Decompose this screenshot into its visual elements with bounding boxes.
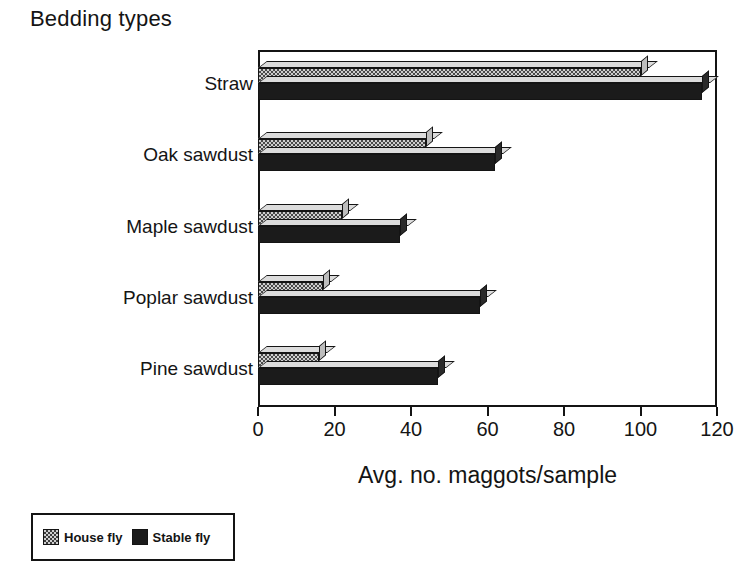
legend-item-house-fly: House fly	[43, 529, 123, 545]
x-tick-80	[563, 407, 565, 416]
category-label-poplar-sawdust: Poplar sawdust	[0, 287, 253, 309]
chart-canvas: Bedding types StrawOak sawdustMaple sawd…	[0, 0, 755, 587]
x-tick-label-20: 20	[305, 418, 365, 441]
bar-end-face	[702, 70, 709, 93]
bar-top-face	[258, 361, 455, 368]
bar-front-face	[258, 297, 480, 314]
x-tick-20	[334, 407, 336, 416]
category-label-oak-sawdust: Oak sawdust	[0, 144, 253, 166]
bar-end-face	[438, 355, 445, 378]
chart-legend: House fly Stable fly	[31, 513, 235, 561]
bar-oak-sawdust-stable-fly	[258, 154, 495, 171]
x-tick-label-40: 40	[381, 418, 441, 441]
bar-top-face	[258, 132, 443, 139]
bar-top-face	[258, 290, 497, 297]
bar-end-face	[641, 55, 648, 76]
x-axis-label: Avg. no. maggots/sample	[258, 462, 717, 489]
legend-label-stable-fly: Stable fly	[153, 530, 211, 545]
x-tick-label-120: 120	[687, 418, 747, 441]
bar-maple-sawdust-stable-fly	[258, 226, 400, 243]
x-tick-label-60: 60	[458, 418, 518, 441]
bar-top-face	[258, 219, 416, 226]
x-tick-0	[257, 407, 259, 416]
x-tick-100	[640, 407, 642, 416]
bar-front-face	[258, 226, 400, 243]
x-tick-label-100: 100	[611, 418, 671, 441]
category-label-maple-sawdust: Maple sawdust	[0, 216, 253, 238]
bar-end-face	[400, 213, 407, 236]
page-title: Bedding types	[30, 6, 172, 32]
bar-straw-stable-fly	[258, 83, 702, 100]
bar-end-face	[495, 141, 502, 164]
plot-area	[258, 50, 717, 407]
x-tick-label-0: 0	[228, 418, 288, 441]
x-tick-40	[410, 407, 412, 416]
house-fly-swatch-icon	[43, 529, 59, 545]
bar-end-face	[480, 284, 487, 307]
category-label-pine-sawdust: Pine sawdust	[0, 358, 253, 380]
bar-front-face	[258, 154, 495, 171]
legend-item-stable-fly: Stable fly	[132, 529, 211, 545]
stable-fly-swatch-icon	[132, 529, 148, 545]
bar-end-face	[342, 198, 349, 219]
bar-end-face	[426, 126, 433, 147]
x-tick-label-80: 80	[534, 418, 594, 441]
legend-label-house-fly: House fly	[64, 530, 123, 545]
x-tick-60	[487, 407, 489, 416]
bar-pine-sawdust-stable-fly	[258, 368, 438, 385]
bar-front-face	[258, 368, 438, 385]
bar-end-face	[319, 340, 326, 361]
bar-top-face	[258, 147, 512, 154]
x-tick-120	[716, 407, 718, 416]
bar-end-face	[323, 269, 330, 290]
bar-top-face	[258, 76, 719, 83]
bar-poplar-sawdust-stable-fly	[258, 297, 480, 314]
bar-top-face	[258, 61, 657, 68]
category-label-straw: Straw	[0, 73, 253, 95]
bar-front-face	[258, 83, 702, 100]
